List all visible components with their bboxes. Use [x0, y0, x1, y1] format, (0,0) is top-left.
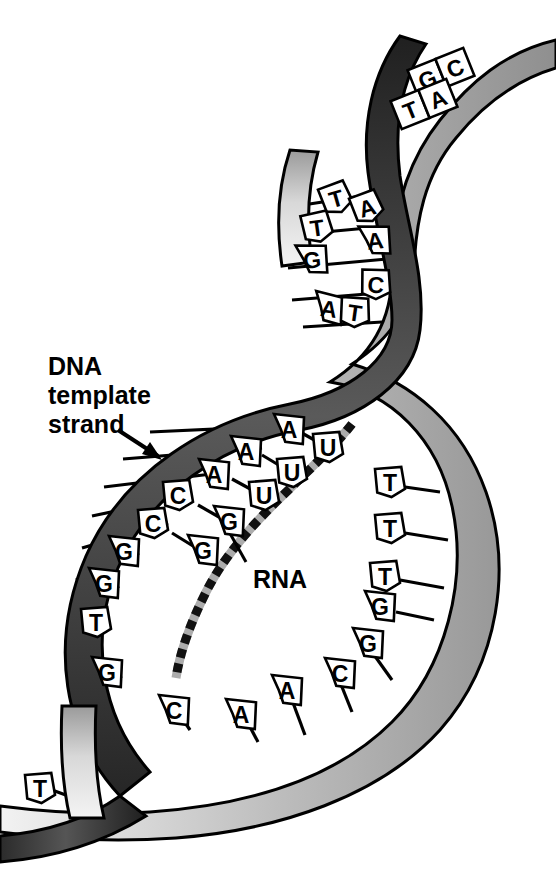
base-g: G — [214, 506, 244, 536]
base-letter: T — [89, 610, 103, 636]
base-u: U — [313, 432, 343, 462]
base-letter: A — [365, 227, 384, 255]
label-line-3: strand — [48, 410, 124, 438]
base-letter: G — [302, 246, 323, 274]
base-t: T — [375, 513, 405, 543]
base-letter: T — [378, 564, 392, 590]
base-t: T — [81, 607, 111, 637]
label-line-1: DNA — [48, 352, 102, 380]
figure-canvas: DNA template strand RNA GCTATATAGCATAAAC… — [0, 0, 556, 875]
base-c: C — [138, 508, 168, 538]
base-letter: U — [256, 483, 273, 509]
base-t: T — [375, 467, 405, 497]
base-letter: G — [194, 538, 212, 564]
base-letter: A — [238, 439, 255, 465]
base-c: C — [159, 695, 189, 725]
base-t: T — [25, 773, 55, 803]
base-letter: C — [166, 698, 183, 724]
base-letter: C — [170, 483, 187, 509]
base-letter: G — [371, 594, 389, 620]
base-c: C — [325, 658, 355, 688]
rna-label: RNA — [253, 565, 307, 593]
base-a: A — [359, 224, 392, 257]
base-letter: C — [145, 511, 162, 537]
base-c: C — [163, 480, 193, 510]
base-letter: U — [284, 460, 301, 486]
base-letter: G — [220, 509, 238, 535]
base-letter: A — [281, 417, 298, 443]
base-a: A — [272, 675, 302, 705]
base-letter: T — [383, 516, 397, 542]
base-letter: G — [359, 631, 377, 657]
label-line-2: template — [48, 381, 151, 409]
base-letter: C — [366, 271, 385, 299]
base-letter: U — [320, 435, 337, 461]
base-u: U — [249, 480, 279, 510]
dna-template-strand-label: DNA template strand — [48, 352, 151, 438]
base-t: T — [370, 561, 400, 591]
base-letter: G — [98, 660, 116, 686]
base-letter: T — [383, 470, 397, 496]
base-letter: G — [95, 571, 113, 597]
base-letter: G — [115, 539, 133, 565]
base-letter: A — [206, 462, 223, 488]
base-t: T — [300, 210, 334, 244]
base-g: G — [353, 628, 383, 658]
base-letter: A — [279, 678, 296, 704]
dna-transcription-illustration: DNA template strand RNA GCTATATAGCATAAAC… — [0, 0, 556, 875]
base-a: A — [226, 699, 256, 729]
base-u: U — [277, 457, 307, 487]
base-letter: T — [33, 776, 47, 802]
base-g: G — [188, 535, 218, 565]
base-letter: C — [332, 661, 349, 687]
base-letter: A — [233, 702, 250, 728]
base-g: G — [365, 591, 395, 621]
template-strand-arrow — [118, 430, 162, 460]
